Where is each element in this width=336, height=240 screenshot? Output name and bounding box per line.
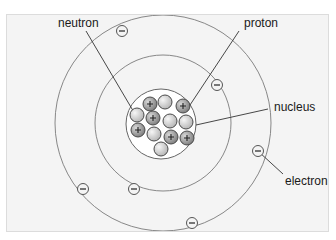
label-electron: electron <box>285 175 328 187</box>
nucleus-leader-line <box>196 109 268 125</box>
neutron <box>179 115 193 129</box>
electron-icon <box>78 184 89 195</box>
neutron <box>154 142 168 156</box>
neutron-leader-line <box>86 31 135 114</box>
atom-diagram <box>0 0 336 240</box>
electron-icon <box>212 80 223 91</box>
label-nucleus: nucleus <box>274 101 315 113</box>
electron-icon <box>129 184 140 195</box>
label-proton: proton <box>244 17 278 29</box>
proton-leader-line <box>188 31 239 108</box>
electron-icon <box>187 218 198 229</box>
neutron <box>158 95 172 109</box>
neutron <box>163 114 177 128</box>
electron-icon <box>117 26 128 37</box>
neutron <box>147 127 161 141</box>
electron-leader-line <box>259 152 283 174</box>
electron-icon <box>253 146 264 157</box>
label-neutron: neutron <box>58 17 99 29</box>
neutron <box>130 108 144 122</box>
